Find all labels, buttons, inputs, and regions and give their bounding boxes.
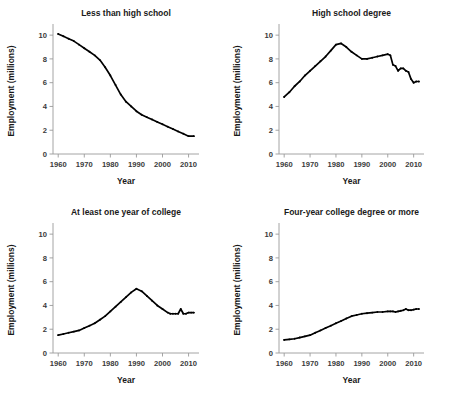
data-point-marker	[382, 311, 384, 313]
x-tick-label: 1960	[50, 160, 67, 169]
y-tick-label: 6	[43, 277, 47, 286]
data-point-marker	[392, 310, 394, 312]
data-point-marker	[288, 91, 290, 93]
data-point-marker	[340, 43, 342, 45]
data-point-marker	[83, 47, 85, 49]
data-point-marker	[283, 339, 285, 341]
data-point-marker	[397, 70, 399, 72]
data-point-marker	[319, 60, 321, 62]
data-point-marker	[288, 338, 290, 340]
data-point-marker	[387, 310, 389, 312]
data-point-marker	[73, 331, 75, 333]
data-point-marker	[104, 315, 106, 317]
data-point-marker	[73, 40, 75, 42]
y-tick-label: 6	[43, 78, 47, 87]
data-point-marker	[172, 128, 174, 130]
data-point-marker	[57, 334, 59, 336]
data-point-marker	[335, 44, 337, 46]
data-point-marker	[418, 81, 420, 83]
y-tick-label: 8	[43, 254, 47, 263]
data-point-marker	[78, 44, 80, 46]
data-point-marker	[185, 313, 187, 315]
data-point-marker	[389, 310, 391, 312]
data-point-marker	[141, 290, 143, 292]
data-point-marker	[156, 121, 158, 123]
multi-panel-chart-figure: Less than high school0246810196019701980…	[0, 0, 451, 398]
data-series-line	[58, 289, 194, 335]
x-tick-label: 1970	[76, 359, 93, 368]
data-point-marker	[309, 334, 311, 336]
data-point-marker	[190, 312, 192, 314]
data-point-marker	[395, 311, 397, 313]
data-point-marker	[408, 309, 410, 311]
data-point-marker	[325, 327, 327, 329]
x-tick-label: 1970	[302, 160, 319, 169]
y-axis-label: Employment (millions)	[6, 244, 16, 335]
data-point-marker	[371, 312, 373, 314]
data-point-marker	[356, 314, 358, 316]
x-tick-label: 1980	[328, 160, 345, 169]
panel-title: At least one year of college	[71, 207, 181, 217]
x-axis-label: Year	[117, 375, 136, 385]
data-point-marker	[104, 66, 106, 68]
y-tick-label: 4	[269, 102, 274, 111]
y-tick-label: 8	[269, 55, 273, 64]
y-tick-label: 0	[43, 349, 47, 358]
data-point-marker	[193, 312, 195, 314]
data-point-marker	[141, 114, 143, 116]
data-point-marker	[156, 305, 158, 307]
data-point-marker	[115, 84, 117, 86]
data-point-marker	[182, 313, 184, 315]
data-point-marker	[135, 110, 137, 112]
data-point-marker	[294, 338, 296, 340]
x-tick-label: 1990	[353, 160, 370, 169]
y-tick-label: 4	[43, 102, 48, 111]
data-point-marker	[109, 310, 111, 312]
data-point-marker	[182, 133, 184, 135]
data-point-marker	[188, 135, 190, 137]
data-series-line	[284, 309, 419, 340]
x-tick-label: 1960	[276, 160, 293, 169]
chart-panel: Four-year college degree or more02468101…	[226, 199, 451, 398]
data-point-marker	[389, 54, 391, 56]
chart-svg: Less than high school0246810196019701980…	[0, 0, 226, 199]
data-point-marker	[410, 309, 412, 311]
data-point-marker	[415, 308, 417, 310]
data-point-marker	[413, 309, 415, 311]
data-point-marker	[78, 329, 80, 331]
data-point-marker	[387, 53, 389, 55]
x-tick-label: 1960	[50, 359, 67, 368]
y-tick-label: 10	[265, 230, 273, 239]
y-tick-label: 0	[269, 349, 273, 358]
panel-title: Less than high school	[81, 8, 171, 18]
data-point-marker	[180, 308, 182, 310]
data-point-marker	[299, 337, 301, 339]
x-tick-label: 2010	[405, 160, 422, 169]
data-point-marker	[408, 71, 410, 73]
data-point-marker	[146, 295, 148, 297]
x-tick-label: 1970	[76, 160, 93, 169]
data-point-marker	[162, 308, 164, 310]
x-tick-label: 1980	[102, 359, 119, 368]
data-point-marker	[304, 335, 306, 337]
x-axis-label: Year	[343, 176, 362, 186]
y-tick-label: 2	[43, 126, 47, 135]
data-point-marker	[415, 81, 417, 83]
y-tick-label: 8	[43, 55, 47, 64]
data-point-marker	[167, 126, 169, 128]
chart-svg: At least one year of college024681019601…	[0, 199, 226, 398]
data-point-marker	[392, 64, 394, 66]
chart-panel: Less than high school0246810196019701980…	[0, 0, 226, 199]
data-point-marker	[62, 35, 64, 37]
x-tick-label: 2010	[180, 359, 197, 368]
y-tick-label: 0	[43, 150, 47, 159]
data-point-marker	[345, 318, 347, 320]
y-tick-label: 2	[269, 325, 273, 334]
data-point-marker	[402, 67, 404, 69]
data-point-marker	[330, 50, 332, 52]
data-point-marker	[309, 70, 311, 72]
data-point-marker	[376, 56, 378, 58]
panel-title: High school degree	[312, 8, 391, 18]
data-point-marker	[361, 58, 363, 60]
y-tick-label: 0	[269, 150, 273, 159]
